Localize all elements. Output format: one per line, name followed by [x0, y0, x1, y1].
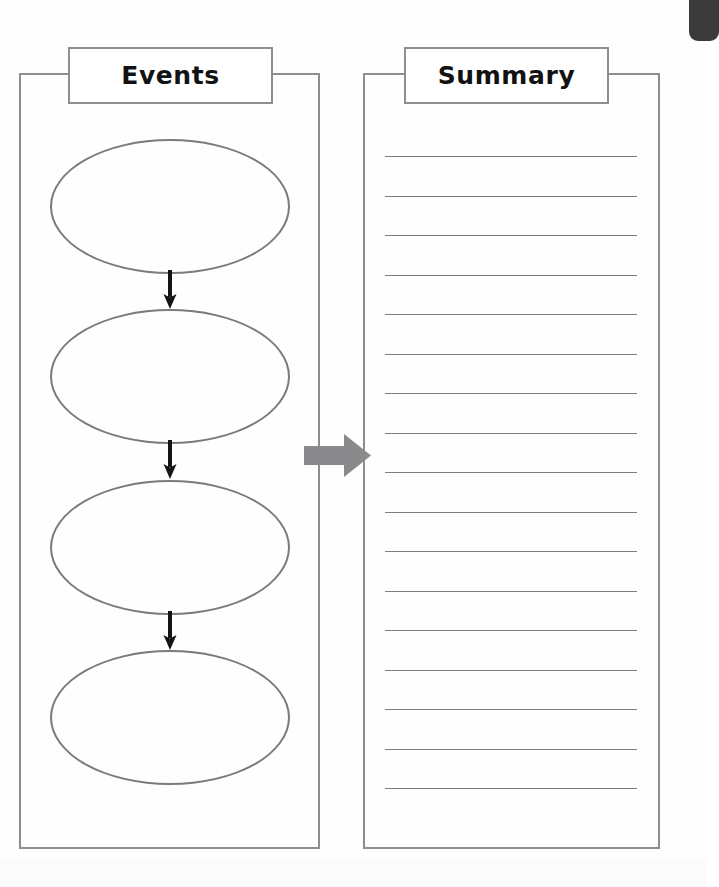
summary-panel	[363, 73, 660, 849]
event-ellipse-1[interactable]	[50, 139, 290, 274]
summary-write-line-3[interactable]	[385, 235, 637, 236]
summary-write-line-5[interactable]	[385, 314, 637, 315]
summary-write-line-7[interactable]	[385, 393, 637, 394]
event-ellipse-3[interactable]	[50, 480, 290, 615]
event-ellipse-2[interactable]	[50, 309, 290, 444]
summary-write-line-1[interactable]	[385, 156, 637, 157]
summary-write-line-15[interactable]	[385, 709, 637, 710]
summary-write-line-2[interactable]	[385, 196, 637, 197]
events-title: Events	[121, 63, 220, 88]
summary-write-line-8[interactable]	[385, 433, 637, 434]
summary-write-line-11[interactable]	[385, 551, 637, 552]
summary-write-line-17[interactable]	[385, 788, 637, 789]
summary-header-box: Summary	[404, 47, 609, 104]
down-arrow-icon-2	[162, 440, 178, 480]
summary-write-line-6[interactable]	[385, 354, 637, 355]
events-header-box: Events	[68, 47, 273, 104]
down-arrow-icon-3	[162, 611, 178, 651]
summary-write-line-10[interactable]	[385, 512, 637, 513]
summary-title: Summary	[438, 63, 576, 88]
summary-write-line-9[interactable]	[385, 472, 637, 473]
transition-block-arrow-right-icon	[304, 433, 372, 478]
summary-write-line-13[interactable]	[385, 630, 637, 631]
down-arrow-icon-1	[162, 270, 178, 310]
summary-write-line-12[interactable]	[385, 591, 637, 592]
paper-bottom-edge	[0, 858, 707, 887]
scan-spine-shadow	[689, 0, 719, 41]
summary-write-line-14[interactable]	[385, 670, 637, 671]
summary-write-line-4[interactable]	[385, 275, 637, 276]
event-ellipse-4[interactable]	[50, 650, 290, 785]
summary-write-line-16[interactable]	[385, 749, 637, 750]
